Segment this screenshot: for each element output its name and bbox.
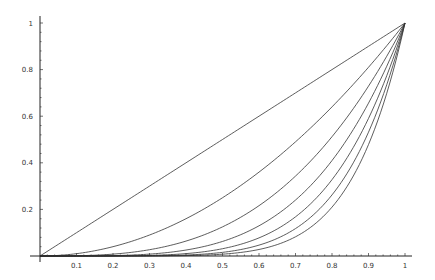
curve-group: [40, 23, 405, 256]
x-tick-label: 0.9: [363, 262, 374, 270]
y-tick-label: 0.8: [22, 66, 33, 74]
x-tick-label: 0.6: [253, 262, 265, 270]
series-line-x-pow-1: [40, 23, 405, 256]
x-tick-label: 0.8: [326, 262, 337, 270]
x-tick-label: 0.3: [144, 262, 155, 270]
y-tick-label: 0.6: [22, 113, 34, 121]
chart: 0.10.20.30.40.50.60.70.80.91 0.20.40.60.…: [0, 0, 435, 280]
x-tick-label: 0.4: [180, 262, 192, 270]
y-tick-label: 1: [29, 20, 33, 28]
y-tick-label: 0.4: [22, 159, 34, 167]
x-tick-label: 0.2: [107, 262, 118, 270]
x-tick-label: 0.5: [217, 262, 228, 270]
x-tick-label: 0.1: [71, 262, 82, 270]
x-tick-label: 1: [403, 262, 407, 270]
x-tick-label: 0.7: [290, 262, 301, 270]
axes: [30, 16, 412, 262]
y-tick-label: 0.2: [22, 206, 33, 214]
